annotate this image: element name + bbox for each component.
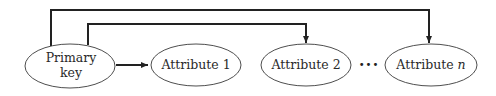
node-primary-key-label-line2: key: [60, 65, 83, 80]
node-primary-key-label-line1: Primary: [46, 50, 98, 65]
node-attribute-n-label-prefix: Attribute: [395, 57, 457, 72]
node-primary-key: Primary key: [25, 44, 115, 88]
node-attribute-1: Attribute 1: [151, 44, 241, 86]
node-attribute-2: Attribute 2: [261, 44, 351, 86]
ellipsis-dots: •••: [359, 59, 380, 70]
node-attribute-1-label: Attribute 1: [160, 57, 230, 72]
node-attribute-n-label: Attribute n: [395, 57, 465, 72]
edge-pk-to-attribute-2: [88, 24, 306, 45]
node-attribute-n: Attribute n: [385, 44, 477, 86]
edge-pk-to-attribute-n: [51, 10, 429, 46]
node-attribute-2-label: Attribute 2: [270, 57, 340, 72]
node-attribute-n-label-var: n: [458, 57, 466, 72]
diagram-canvas: Primary key Attribute 1 Attribute 2 ••• …: [0, 0, 496, 96]
